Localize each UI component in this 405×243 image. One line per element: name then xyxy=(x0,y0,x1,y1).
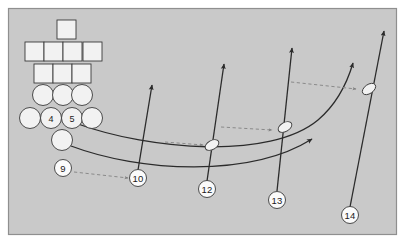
circle-player-5-label: 5 xyxy=(69,114,74,124)
circle-row1-3 xyxy=(72,85,93,106)
square-row3-1 xyxy=(34,64,53,83)
circle-row1-2 xyxy=(53,85,74,106)
marker-14-label: 14 xyxy=(344,210,355,221)
square-row2-3 xyxy=(63,42,82,61)
square-row3-2 xyxy=(53,64,72,83)
marker-9-label: 9 xyxy=(60,163,66,174)
square-row2-4 xyxy=(83,42,102,61)
square-row2-2 xyxy=(44,42,63,61)
circle-player-4-label: 4 xyxy=(48,114,53,124)
circle-row2-4 xyxy=(82,108,103,129)
play-diagram: 4 5 9 xyxy=(0,0,405,243)
circle-row1-1 xyxy=(33,85,54,106)
square-top xyxy=(57,20,76,39)
square-row2-1 xyxy=(25,42,44,61)
marker-13-label: 13 xyxy=(271,195,282,206)
circle-row2-1 xyxy=(20,108,41,129)
square-row3-3 xyxy=(72,64,91,83)
circle-backfield xyxy=(52,130,73,151)
play-diagram-canvas: 4 5 9 xyxy=(0,0,405,243)
marker-10-label: 10 xyxy=(132,173,143,184)
marker-12-label: 12 xyxy=(201,184,212,195)
